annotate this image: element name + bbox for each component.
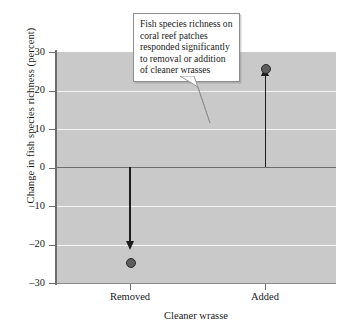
y-tick-neg30 — [49, 283, 57, 284]
callout-line-5: of cleaner wrasses — [140, 64, 234, 76]
data-point-added — [261, 64, 271, 74]
data-point-removed — [126, 258, 136, 268]
x-tick-added — [265, 284, 266, 290]
gridline-10 — [57, 129, 336, 130]
y-axis-label: Change in fish species richness (percent… — [25, 1, 36, 231]
y-tick-label-neg20: –20 — [5, 239, 45, 249]
y-tick-label-0: 0 — [5, 162, 45, 172]
callout-line-2: coral reef patches — [140, 30, 234, 42]
callout-line-3: responded significantly — [140, 41, 234, 53]
y-tick-label-20: 20 — [5, 85, 45, 95]
x-tick-label-added: Added — [220, 291, 310, 302]
callout-line-1: Fish species richness on — [140, 18, 234, 30]
x-tick-label-removed: Removed — [85, 291, 175, 302]
y-tick-label-neg30: –30 — [5, 278, 45, 288]
y-tick-label-30: 30 — [5, 47, 45, 57]
arrow-shaft-removed — [129, 167, 130, 243]
callout-line-4: to removal or addition — [140, 53, 234, 65]
arrow-shaft-added — [265, 75, 266, 167]
x-axis-label: Cleaner wrasse — [56, 310, 336, 321]
y-tick-30 — [49, 52, 57, 53]
y-tick-10 — [49, 129, 57, 130]
x-tick-removed — [130, 284, 131, 290]
arrow-head-removed — [126, 241, 134, 250]
y-tick-neg20 — [49, 245, 57, 246]
zero-line — [57, 167, 336, 169]
gridline-neg20 — [57, 245, 336, 246]
gridline-neg10 — [57, 206, 336, 207]
y-tick-0 — [49, 168, 57, 169]
y-tick-label-10: 10 — [5, 124, 45, 134]
chart-figure: Change in fish species richness (percent… — [0, 0, 341, 329]
y-tick-neg10 — [49, 206, 57, 207]
annotation-callout: Fish species richness on coral reef patc… — [133, 13, 240, 82]
y-tick-20 — [49, 91, 57, 92]
x-axis-line — [55, 283, 336, 284]
y-tick-label-neg10: –10 — [5, 201, 45, 211]
callout-leader-line — [180, 76, 226, 124]
